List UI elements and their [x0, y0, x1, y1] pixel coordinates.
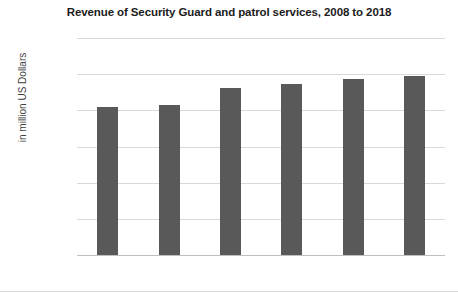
gridline	[77, 219, 445, 220]
gridline	[77, 147, 445, 148]
bar	[404, 76, 425, 255]
bar	[220, 88, 241, 255]
bar	[97, 107, 118, 255]
gridline	[77, 74, 445, 75]
bar	[281, 84, 302, 255]
gridline	[77, 183, 445, 184]
chart-title: Revenue of Security Guard and patrol ser…	[0, 6, 458, 18]
plot-area: 0500010000150002000025000300002008201020…	[77, 38, 445, 255]
bar	[159, 105, 180, 255]
gridline	[77, 110, 445, 111]
bar-chart: Revenue of Security Guard and patrol ser…	[0, 0, 458, 292]
axis-baseline	[77, 255, 445, 256]
bar	[343, 79, 364, 255]
y-axis-title: in million US Dollars	[17, 13, 28, 183]
gridline	[77, 38, 445, 39]
